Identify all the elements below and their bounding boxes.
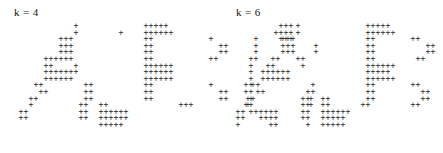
plus-glyph: + bbox=[429, 48, 437, 56]
plus-glyph: + bbox=[339, 121, 347, 129]
panel-k6: k = 6 ++++++++++++++++++++++++++++++++++… bbox=[222, 0, 443, 153]
plus-glyph: + bbox=[234, 121, 242, 129]
plus-glyph: + bbox=[304, 121, 312, 129]
plus-glyph: + bbox=[117, 29, 125, 37]
plus-glyph: + bbox=[299, 62, 307, 70]
panel-k4-label: k = 4 bbox=[14, 6, 39, 19]
panel-k6-label: k = 6 bbox=[236, 6, 261, 19]
plus-glyph: + bbox=[284, 75, 292, 83]
plus-glyph: + bbox=[22, 114, 30, 122]
plus-glyph: + bbox=[147, 95, 155, 103]
plus-glyph: + bbox=[187, 101, 195, 109]
ascii-abc-figure: k = 4 ++++++++++++++++++++++++++++++++++… bbox=[0, 0, 443, 153]
plus-glyph: + bbox=[419, 55, 427, 63]
plus-glyph: + bbox=[67, 75, 75, 83]
plus-glyph: + bbox=[42, 88, 50, 96]
plus-glyph: + bbox=[82, 114, 90, 122]
plus-glyph: + bbox=[389, 75, 397, 83]
plus-glyph: + bbox=[207, 81, 215, 89]
panel-k4-plus-grid: ++++++++++++++++++++++++++++++++++++++++… bbox=[0, 22, 221, 153]
plus-glyph: + bbox=[424, 95, 432, 103]
plus-glyph: + bbox=[207, 35, 215, 43]
plus-glyph: + bbox=[389, 29, 397, 37]
plus-glyph: + bbox=[414, 35, 422, 43]
plus-glyph: + bbox=[212, 55, 220, 63]
plus-glyph: + bbox=[167, 75, 175, 83]
plus-glyph: + bbox=[117, 121, 125, 129]
panel-k4: k = 4 ++++++++++++++++++++++++++++++++++… bbox=[0, 0, 221, 153]
plus-glyph: + bbox=[414, 101, 422, 109]
plus-glyph: + bbox=[167, 29, 175, 37]
plus-glyph: + bbox=[259, 88, 267, 96]
plus-glyph: + bbox=[364, 101, 372, 109]
panel-k6-plus-grid: ++++++++++++++++++++++++++++++++++++++++… bbox=[222, 22, 443, 153]
